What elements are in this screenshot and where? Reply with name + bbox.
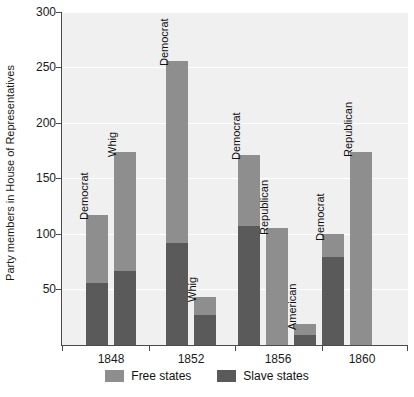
bar-1848-whig [114,152,136,345]
chart-legend: Free states Slave states [0,369,414,383]
bar-segment-slave-states [194,315,216,345]
bar-label-1852-whig: Whig [186,277,198,302]
bar-label-1852-democrat: Democrat [158,18,170,66]
gridline-300 [62,12,408,13]
bar-segment-free-states [166,61,188,243]
bar-label-1856-republican: Republican [258,180,270,235]
bar-1848-democrat [86,215,108,345]
bar-label-1856-democrat: Democrat [230,112,242,160]
x-tick-label-1856: 1856 [248,352,308,366]
y-tick-mark-100 [56,234,61,235]
bar-segment-slave-states [322,257,344,345]
bar-1856-democrat [238,155,260,345]
legend-item-slave-states: Slave states [217,369,308,383]
bar-chart: Party members in House of Representative… [0,0,414,397]
bar-1852-democrat [166,61,188,345]
y-tick-mark-300 [56,12,61,13]
legend-label-free-states: Free states [131,369,191,383]
y-tick-label-200: 200 [20,116,56,130]
legend-swatch-free-states [105,370,124,382]
x-tick-label-1860: 1860 [332,352,392,366]
bar-segment-slave-states [86,283,108,345]
bar-segment-slave-states [166,243,188,345]
bar-segment-slave-states [238,226,260,345]
y-tick-label-150: 150 [20,171,56,185]
x-tick-mark-4 [407,346,408,351]
bar-segment-slave-states [114,271,136,345]
x-tick-label-1852: 1852 [161,352,221,366]
x-tick-label-1848: 1848 [81,352,141,366]
y-tick-mark-150 [56,178,61,179]
y-axis-title-text: Party members in House of Representative… [4,65,16,281]
legend-swatch-slave-states [217,370,236,382]
x-tick-mark-3 [322,346,323,351]
y-tick-label-100: 100 [20,227,56,241]
gridline-250 [62,67,408,68]
bar-label-1860-republican: Republican [342,102,354,157]
legend-item-free-states: Free states [105,369,191,383]
bar-segment-free-states [238,155,260,226]
y-axis-title: Party members in House of Representative… [0,0,20,345]
bar-segment-free-states [114,152,136,271]
bar-label-1848-whig: Whig [106,132,118,157]
y-tick-label-250: 250 [20,60,56,74]
x-tick-mark-1 [149,346,150,351]
bar-label-1860-democrat: Democrat [314,193,326,241]
bar-segment-free-states [86,215,108,283]
bar-segment-slave-states [294,335,316,345]
bar-label-1848-democrat: Democrat [78,172,90,220]
bar-1852-whig [194,297,216,345]
bar-label-1856-american: American [286,284,298,330]
legend-label-slave-states: Slave states [243,369,308,383]
y-tick-label-300: 300 [20,5,56,19]
y-tick-mark-50 [56,289,61,290]
y-tick-mark-250 [56,67,61,68]
bar-1860-republican [350,152,372,345]
y-tick-mark-200 [56,123,61,124]
y-tick-label-50: 50 [20,282,56,296]
bar-1856-republican [266,228,288,345]
bar-segment-free-states [350,152,372,345]
bar-1860-democrat [322,234,344,345]
plot-area: Democrat Whig Democrat Whig Democrat [62,12,408,345]
y-axis-line [61,12,62,346]
x-tick-mark-2 [235,346,236,351]
bar-segment-free-states [266,228,288,345]
x-tick-mark-0 [62,346,63,351]
